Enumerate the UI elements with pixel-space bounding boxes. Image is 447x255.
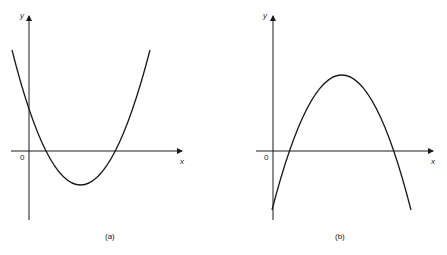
curve-a: [12, 50, 150, 185]
y-label-a: y: [20, 11, 24, 20]
origin-label-b: 0: [264, 153, 268, 162]
curve-b: [272, 75, 411, 210]
caption-b: (b): [335, 232, 345, 241]
x-label-a: x: [180, 157, 184, 166]
graph-a: [11, 16, 182, 220]
origin-label-a: 0: [20, 153, 24, 162]
graph-b: [256, 16, 433, 220]
x-label-b: x: [431, 157, 435, 166]
caption-a: (a): [105, 232, 115, 241]
figure-canvas: [0, 0, 447, 255]
y-label-b: y: [263, 11, 267, 20]
